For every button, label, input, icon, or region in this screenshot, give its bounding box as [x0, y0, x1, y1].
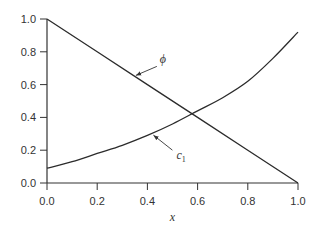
- x-tick-label: 1.0: [290, 195, 305, 207]
- x-tick-label: 0.2: [90, 195, 105, 207]
- series-group: [47, 19, 298, 183]
- x-tick-label: 0.8: [240, 195, 255, 207]
- annotation-label-c1: c1: [176, 148, 185, 164]
- y-tick-label: 0.4: [21, 111, 36, 123]
- annotations: ϕc1: [136, 52, 186, 164]
- series-line-phi: [47, 19, 298, 183]
- x-tick-label: 0.4: [140, 195, 155, 207]
- y-tick-label: 0.2: [21, 144, 36, 156]
- annotation-subscript: 1: [182, 155, 186, 164]
- annotation-arrow-phi: [136, 66, 157, 75]
- y-tick-label: 0.6: [21, 79, 36, 91]
- y-tick-label: 1.0: [21, 13, 36, 25]
- x-axis-title: x: [169, 210, 176, 224]
- annotation-arrow-c1: [153, 135, 172, 150]
- y-tick-label: 0.8: [21, 46, 36, 58]
- x-tick-label: 0.6: [190, 195, 205, 207]
- axes: 0.00.20.40.60.81.00.00.20.40.60.81.0: [21, 13, 306, 207]
- y-tick-label: 0.0: [21, 177, 36, 189]
- chart: 0.00.20.40.60.81.00.00.20.40.60.81.0 ϕc1…: [0, 0, 316, 234]
- x-tick-label: 0.0: [39, 195, 54, 207]
- series-line-c1: [47, 32, 298, 168]
- annotation-label-phi: ϕ: [160, 52, 166, 66]
